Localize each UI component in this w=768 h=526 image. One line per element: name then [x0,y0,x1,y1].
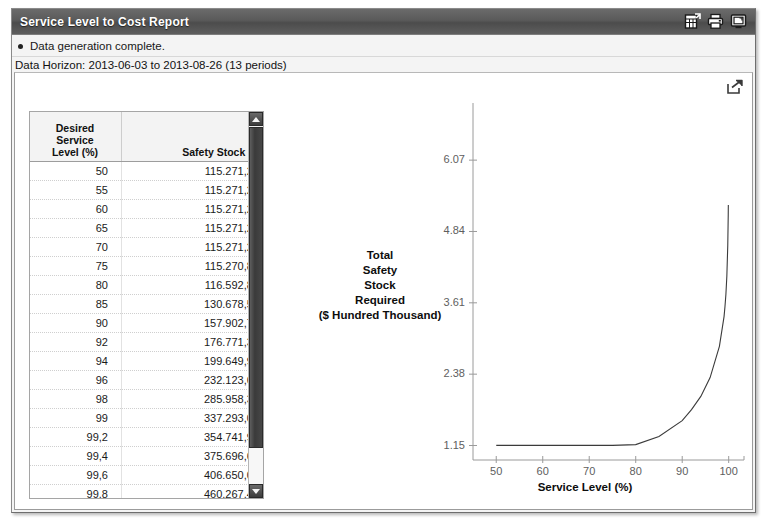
cell-safety-stock: 130.678,58 [122,295,265,314]
header-line-1: Desired [33,122,117,134]
x-tick-label: 50 [481,465,511,477]
window-titlebar: Service Level to Cost Report [12,9,755,35]
y-tick-label: 6.07 [419,153,465,165]
scrollbar-thumb[interactable] [249,127,263,448]
chart-plot-area [280,93,745,493]
cell-safety-stock: 116.592,83 [122,276,265,295]
bullet-icon [18,44,23,49]
cell-service-level: 99,2 [30,428,122,447]
cell-service-level: 96 [30,371,122,390]
cell-safety-stock: 460.267,44 [122,485,265,500]
service-level-cost-chart: Total Safety Stock Required ($ Hundred T… [280,93,745,493]
table-row[interactable]: 75115.270,84 [30,257,264,276]
cell-safety-stock: 232.123,68 [122,371,265,390]
table-row[interactable]: 99,4375.696,61 [30,447,264,466]
x-tick-label: 100 [714,465,744,477]
table-row[interactable]: 96232.123,68 [30,371,264,390]
cost-curve-line [496,205,728,445]
cell-service-level: 60 [30,200,122,219]
scrollbar-track[interactable] [249,448,263,484]
cell-service-level: 99,8 [30,485,122,500]
table-row[interactable]: 90157.902,76 [30,314,264,333]
column-header-safety-stock[interactable]: Safety Stock ($) [122,112,265,162]
table-row[interactable]: 70115.271,24 [30,238,264,257]
report-content-panel: Desired Service Level (%) Safety Stock (… [14,72,753,510]
y-tick-label: 2.38 [419,367,465,379]
y-tick-label: 3.61 [419,296,465,308]
scroll-up-button[interactable] [249,112,263,126]
scroll-down-button[interactable] [249,484,263,498]
column-header-service-level[interactable]: Desired Service Level (%) [30,112,122,162]
cell-safety-stock: 115.271,24 [122,238,265,257]
status-message: Data generation complete. [30,40,165,52]
cell-service-level: 85 [30,295,122,314]
table-header-row: Desired Service Level (%) Safety Stock (… [30,112,264,162]
chart-x-axis-title: Service Level (%) [490,481,680,493]
table-row[interactable]: 98285.958,32 [30,390,264,409]
table-row[interactable]: 80116.592,83 [30,276,264,295]
table-row[interactable]: 65115.271,24 [30,219,264,238]
cell-safety-stock: 354.741,97 [122,428,265,447]
table-row[interactable]: 60115.271,24 [30,200,264,219]
cell-service-level: 75 [30,257,122,276]
safety-stock-table: Desired Service Level (%) Safety Stock (… [29,111,264,499]
table-head: Desired Service Level (%) Safety Stock (… [30,112,264,162]
scroll-down-arrow-icon [252,489,260,494]
cell-service-level: 92 [30,333,122,352]
header-line-3: Level (%) [33,146,117,158]
cell-service-level: 70 [30,238,122,257]
cell-service-level: 99,4 [30,447,122,466]
screenshot-root: Service Level to Cost Report [0,0,768,526]
cell-service-level: 55 [30,181,122,200]
header-line-2: Service [33,134,117,146]
x-tick-label: 60 [528,465,558,477]
cell-safety-stock: 199.649,91 [122,352,265,371]
table-row[interactable]: 85130.678,58 [30,295,264,314]
x-tick-label: 80 [621,465,651,477]
table-row[interactable]: 99,6406.650,07 [30,466,264,485]
table-body: 50115.271,2455115.271,2460115.271,246511… [30,162,264,500]
y-tick-label: 1.15 [419,439,465,451]
cell-service-level: 90 [30,314,122,333]
table-row[interactable]: 99,8460.267,44 [30,485,264,500]
safety-stock-grid: Desired Service Level (%) Safety Stock (… [30,112,264,499]
display-icon[interactable] [729,12,748,31]
cell-safety-stock: 406.650,07 [122,466,265,485]
data-horizon-label: Data Horizon: 2013-06-03 to 2013-08-26 (… [12,56,755,71]
table-row[interactable]: 55115.271,24 [30,181,264,200]
table-row[interactable]: 99,2354.741,97 [30,428,264,447]
cell-safety-stock: 115.271,24 [122,162,265,181]
table-vertical-scrollbar[interactable] [248,112,263,498]
cell-safety-stock: 157.902,76 [122,314,265,333]
x-tick-label: 70 [574,465,604,477]
x-tick-label: 90 [667,465,697,477]
cell-safety-stock: 115.271,24 [122,219,265,238]
cell-service-level: 80 [30,276,122,295]
cell-safety-stock: 285.958,32 [122,390,265,409]
table-row[interactable]: 92176.771,33 [30,333,264,352]
printer-icon[interactable] [706,12,725,31]
scroll-up-arrow-icon [252,117,260,122]
y-tick-label: 4.84 [419,224,465,236]
message-area: Data generation complete. Data Horizon: … [12,35,755,71]
cell-service-level: 99 [30,409,122,428]
table-row[interactable]: 94199.649,91 [30,352,264,371]
cell-safety-stock: 115.271,24 [122,181,265,200]
titlebar-icon-group [683,12,755,31]
cell-safety-stock: 115.270,84 [122,257,265,276]
cell-service-level: 94 [30,352,122,371]
export-grid-icon[interactable] [683,12,702,31]
cell-service-level: 65 [30,219,122,238]
table-row[interactable]: 50115.271,24 [30,162,264,181]
table-row[interactable]: 99337.293,05 [30,409,264,428]
cell-safety-stock: 176.771,33 [122,333,265,352]
cell-service-level: 50 [30,162,122,181]
window-title: Service Level to Cost Report [12,15,189,29]
cell-service-level: 98 [30,390,122,409]
status-message-row: Data generation complete. [12,39,755,54]
cell-safety-stock: 337.293,05 [122,409,265,428]
cell-service-level: 99,6 [30,466,122,485]
report-window: Service Level to Cost Report [11,8,756,513]
cell-safety-stock: 375.696,61 [122,447,265,466]
cell-safety-stock: 115.271,24 [122,200,265,219]
